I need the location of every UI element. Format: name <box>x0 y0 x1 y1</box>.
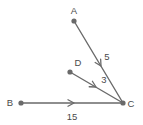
segment-cd-line <box>70 72 123 103</box>
point-b-label: B <box>7 97 13 108</box>
point-b-dot <box>18 100 23 105</box>
point-d-label: D <box>75 57 82 68</box>
geometry-figure: A B C D 5 3 15 <box>0 0 143 125</box>
figure-canvas: A B C D 5 3 15 <box>0 0 143 125</box>
segment-ca-length-label: 5 <box>104 51 109 62</box>
point-a-dot <box>71 18 76 23</box>
point-c-label: C <box>128 98 135 109</box>
segment-cb-length-label: 15 <box>67 111 78 122</box>
point-d-dot <box>67 69 72 74</box>
segment-cd-length-label: 3 <box>101 74 106 85</box>
point-a-label: A <box>71 5 78 16</box>
point-c-dot <box>120 100 125 105</box>
